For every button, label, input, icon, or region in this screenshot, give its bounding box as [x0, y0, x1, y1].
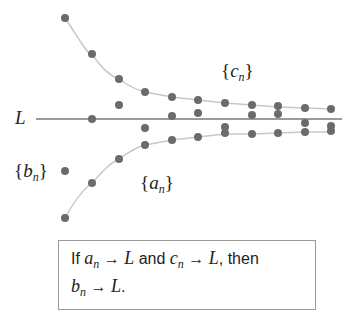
a-sequence-dots: [61, 127, 335, 222]
a-sequence-curve: [65, 132, 331, 218]
c-sequence-dots: [61, 14, 335, 113]
label-a-sequence: {an}: [140, 172, 174, 197]
label-L: L: [15, 107, 26, 129]
label-b-sequence: {bn}: [14, 160, 48, 185]
label-c-sequence: {cn}: [221, 60, 254, 85]
theorem-caption-text: If an → L and cn → L, then bn → L.: [71, 247, 259, 303]
c-sequence-curve: [65, 18, 331, 109]
theorem-caption-box: If an → L and cn → L, then bn → L.: [58, 240, 316, 310]
